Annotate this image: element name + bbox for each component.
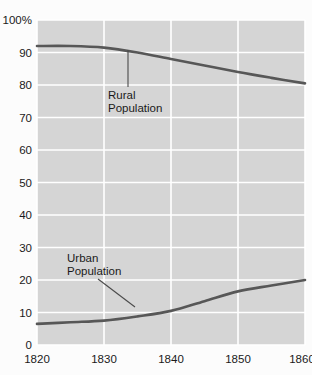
y-axis-tick-80: 80 — [19, 79, 32, 91]
y-axis-tick-30: 30 — [19, 242, 32, 254]
rural-annotation-label-line1: Rural — [108, 89, 135, 101]
x-axis-tick-1860: 1860 — [289, 353, 312, 365]
y-axis-tick-10: 10 — [19, 307, 32, 319]
population-line-chart: 100% 90 80 70 60 50 40 30 20 10 0 1820 1… — [0, 0, 312, 375]
chart-container: 100% 90 80 70 60 50 40 30 20 10 0 1820 1… — [0, 0, 312, 375]
urban-annotation-label-line1: Urban — [67, 252, 98, 264]
y-axis-tick-20: 20 — [19, 274, 32, 286]
x-axis-tick-1840: 1840 — [158, 353, 184, 365]
x-axis-tick-1820: 1820 — [24, 353, 50, 365]
y-axis-tick-40: 40 — [19, 209, 32, 221]
y-axis-tick-50: 50 — [19, 177, 32, 189]
y-axis-tick-70: 70 — [19, 112, 32, 124]
y-axis-tick-0: 0 — [26, 339, 32, 351]
y-axis-tick-90: 90 — [19, 47, 32, 59]
urban-annotation-label-line2: Population — [67, 265, 121, 277]
x-axis-tick-1850: 1850 — [225, 353, 251, 365]
x-axis-tick-1830: 1830 — [91, 353, 117, 365]
y-axis-tick-100: 100% — [3, 14, 32, 26]
rural-annotation-label-line2: Population — [108, 102, 162, 114]
y-axis-tick-60: 60 — [19, 144, 32, 156]
